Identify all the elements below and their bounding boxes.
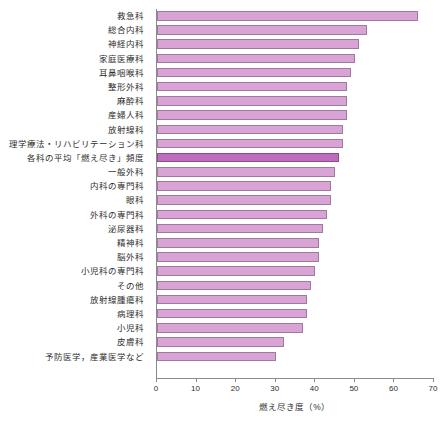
bar-row [157, 264, 434, 278]
bar-row [157, 66, 434, 80]
x-axis: 010203040506070 [156, 378, 433, 379]
bar [157, 139, 343, 149]
bar-row [157, 321, 434, 335]
bar [157, 181, 331, 191]
bar-row [157, 293, 434, 307]
bar-row [157, 137, 434, 151]
x-axis-tick [196, 378, 197, 382]
plot-area [156, 9, 434, 378]
category-label: 精神科 [0, 236, 150, 250]
bar [157, 82, 347, 92]
x-axis-title: 燃え尽き度（%） [156, 400, 433, 412]
bar-row [157, 123, 434, 137]
bar [157, 266, 315, 276]
category-axis-labels: 救急科総合内科神経内科家庭医療科耳鼻咽喉科整形外科麻酔科産婦人科放射線科理学療法… [0, 9, 150, 364]
x-axis-tick [275, 378, 276, 382]
bar [157, 224, 323, 234]
bar [157, 11, 418, 21]
bar [157, 25, 367, 35]
bar-row [157, 307, 434, 321]
category-label: 小児科の専門科 [0, 264, 150, 278]
bar-row [157, 52, 434, 66]
bar-row [157, 151, 434, 165]
category-label: 皮膚科 [0, 335, 150, 349]
x-axis-tick-label: 0 [154, 384, 158, 393]
bar [157, 323, 303, 333]
bar [157, 39, 359, 49]
bar [157, 110, 347, 120]
x-axis-tick-label: 30 [270, 384, 279, 393]
category-label: 内科の専門科 [0, 179, 150, 193]
x-axis-tick [156, 378, 157, 382]
bar-row [157, 37, 434, 51]
category-label: 眼科 [0, 193, 150, 207]
category-label: 小児科 [0, 321, 150, 335]
bar [157, 337, 284, 347]
bar [157, 125, 343, 135]
bar-row [157, 335, 434, 349]
x-axis-tick-label: 60 [389, 384, 398, 393]
bar-row [157, 222, 434, 236]
bar [157, 195, 331, 205]
bar [157, 96, 347, 106]
x-axis-tick [354, 378, 355, 382]
bar [157, 68, 351, 78]
bar-average-highlight [157, 153, 339, 163]
category-label: 一般外科 [0, 165, 150, 179]
bar-row [157, 94, 434, 108]
category-label: 放射線腫瘍科 [0, 293, 150, 307]
category-label: 産婦人科 [0, 108, 150, 122]
x-axis-tick [314, 378, 315, 382]
bar [157, 295, 307, 305]
category-label: 理学療法・リハビリテーション科 [0, 137, 150, 151]
bar-row [157, 250, 434, 264]
bar-row [157, 80, 434, 94]
bar [157, 210, 327, 220]
bar-row [157, 236, 434, 250]
category-label: 泌尿器科 [0, 222, 150, 236]
bar [157, 238, 319, 248]
category-label: 外科の専門科 [0, 208, 150, 222]
x-axis-tick-label: 40 [310, 384, 319, 393]
bar-row [157, 193, 434, 207]
category-label: その他 [0, 279, 150, 293]
x-axis-tick-label: 20 [231, 384, 240, 393]
category-label: 脳外科 [0, 250, 150, 264]
category-label: 麻酔科 [0, 94, 150, 108]
x-axis-tick [235, 378, 236, 382]
bar [157, 252, 319, 262]
category-label: 神経内科 [0, 37, 150, 51]
bar-row [157, 165, 434, 179]
bar [157, 54, 355, 64]
x-axis-tick [433, 378, 434, 382]
bar-chart: 救急科総合内科神経内科家庭医療科耳鼻咽喉科整形外科麻酔科産婦人科放射線科理学療法… [0, 0, 441, 428]
category-label: 総合内科 [0, 23, 150, 37]
category-label: 救急科 [0, 9, 150, 23]
bar-row [157, 350, 434, 364]
category-label: 予防医学，産業医学など [0, 350, 150, 364]
category-label: 各科の平均「燃え尽き」頻度 [0, 151, 150, 165]
bar-row [157, 179, 434, 193]
category-label: 耳鼻咽喉科 [0, 66, 150, 80]
bar-row [157, 23, 434, 37]
category-label: 整形外科 [0, 80, 150, 94]
x-axis-tick-label: 50 [349, 384, 358, 393]
bar [157, 352, 276, 362]
x-axis-tick [393, 378, 394, 382]
bar-row [157, 279, 434, 293]
bar [157, 167, 335, 177]
x-axis-tick-label: 70 [429, 384, 438, 393]
category-label: 放射線科 [0, 123, 150, 137]
bar [157, 309, 307, 319]
bar [157, 281, 311, 291]
category-label: 病理科 [0, 307, 150, 321]
bar-row [157, 108, 434, 122]
bar-row [157, 9, 434, 23]
category-label: 家庭医療科 [0, 52, 150, 66]
bar-row [157, 208, 434, 222]
x-axis-tick-label: 10 [191, 384, 200, 393]
